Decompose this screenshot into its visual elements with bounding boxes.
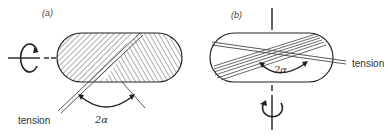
angle-label-a: 2α	[94, 114, 108, 125]
panel-a: (a)	[8, 8, 190, 126]
filament-winding-diagram: (a)	[0, 0, 388, 140]
angle-label-b: 2α	[273, 64, 287, 75]
panel-b-label: (b)	[231, 10, 242, 20]
panel-b: (b) 2α	[210, 8, 384, 130]
wound-cylinder-b	[210, 33, 333, 82]
rotation-arrow-icon-b	[260, 100, 283, 117]
tension-label-a: tension	[18, 115, 50, 126]
panel-a-label: (a)	[42, 8, 53, 18]
tension-label-b: tension	[352, 58, 384, 69]
angle-arc-a	[78, 94, 135, 107]
fibre-band-b	[214, 34, 326, 80]
